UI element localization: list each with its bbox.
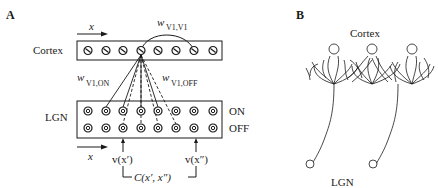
x-label-bottom: x [87,150,93,162]
lgn-on-units [84,107,217,115]
figure-canvas: A x w V1,V1 Cortex w [0,0,438,188]
correlation-bracket-right [188,166,196,177]
lgn-on-unit [172,107,180,115]
lgn-off-unit [172,124,180,132]
lgn-off-unit [119,124,127,132]
cortex-layer-box [77,41,222,60]
lgn-off-unit [154,124,162,132]
panel-b-lgn-label: LGN [331,176,354,188]
lgn-off-unit [190,124,198,132]
input-arrow-right [194,138,198,152]
lgn-off-unit [137,124,145,132]
x-label-top: x [88,20,94,32]
cortex-units [84,47,217,55]
lgn-on-unit [209,107,217,115]
panel-b-label: B [296,8,304,22]
recurrent-weight-label: w V1,V1 [157,16,188,32]
on-label: ON [229,105,245,117]
lgn-on-unit [84,107,92,115]
input-right-label: v(x″) [185,153,208,166]
cortex-unit [102,47,110,55]
lgn-on-unit [154,107,162,115]
cortex-unit [119,47,127,55]
cortex-unit [137,47,145,55]
cortex-unit [190,47,198,55]
lgn-off-unit [102,124,110,132]
lgn-on-unit [102,107,110,115]
svg-text:w: w [162,71,170,83]
cortical-neurons [306,44,434,168]
cortex-unit [84,47,92,55]
x-arrow-top [77,32,108,37]
off-label: OFF [229,122,249,134]
panel-a-label: A [6,8,15,22]
lgn-off-unit [209,124,217,132]
correlation-label: C(x′, x″) [134,171,171,184]
lgn-label: LGN [45,111,68,123]
ff-weight-off-label: w V1,OFF [162,71,198,88]
lgn-layer-box [77,101,222,138]
correlation-bracket-left [123,166,132,177]
cortex-unit [172,47,180,55]
cortex-unit [209,47,217,55]
input-left-label: v(x′) [112,153,133,166]
cortex-label: Cortex [33,44,63,56]
svg-text:V1,OFF: V1,OFF [171,79,198,88]
svg-text:w: w [157,16,165,28]
x-arrow-bottom [77,145,108,150]
lgn-off-unit [84,124,92,132]
lgn-on-unit [190,107,198,115]
ff-weight-on-label: w V1,ON [77,71,110,88]
svg-text:V1,V1: V1,V1 [166,23,188,32]
lgn-on-unit [119,107,127,115]
panel-b-cortex-label: Cortex [350,27,380,39]
svg-text:w: w [77,71,85,83]
svg-text:V1,ON: V1,ON [86,79,110,88]
lgn-off-units [84,124,217,132]
recurrent-connection-arc [141,35,194,50]
cortex-unit [154,47,162,55]
input-arrow-left [121,138,125,152]
lgn-on-unit [137,107,145,115]
